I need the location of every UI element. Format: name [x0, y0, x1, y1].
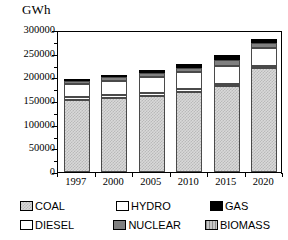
legend-swatch-diesel-icon: [20, 220, 33, 230]
x-axis-tick-mark: [170, 173, 171, 177]
bar-segment-coal: [214, 86, 240, 172]
x-axis-tick-mark: [132, 173, 133, 177]
bar-segment-diesel: [101, 95, 127, 98]
bar-1997: [64, 30, 90, 172]
y-axis-tick-label: 100000: [0, 120, 55, 130]
bar-segment-hydro: [251, 48, 277, 66]
bar-segment-diesel: [214, 84, 240, 87]
bar-segment-nuclear: [176, 68, 202, 72]
legend-label-diesel: DIESEL: [35, 219, 74, 231]
y-axis-tick-label: 300000: [0, 25, 55, 35]
bar-segment-diesel: [251, 66, 277, 69]
y-axis-tick-label: 200000: [0, 72, 55, 82]
x-axis-tick-mark: [245, 173, 246, 177]
chart-legend: COAL HYDRO GAS DIESEL NUCLEAR BIOMA: [20, 198, 270, 236]
legend-item-nuclear: NUCLEAR: [113, 217, 204, 233]
y-axis-tick-label: 250000: [0, 49, 55, 59]
x-axis-tick-mark: [57, 173, 58, 177]
bar-segment-hydro: [101, 81, 127, 95]
bar-segment-nuclear: [251, 43, 277, 47]
bar-segment-diesel: [139, 93, 165, 96]
legend-row-2: DIESEL NUCLEAR BIOMASS: [20, 217, 270, 233]
bar-segment-diesel: [64, 97, 90, 100]
bar-segment-hydro: [64, 84, 90, 97]
legend-item-gas: GAS: [210, 198, 248, 214]
y-axis-tick-label: 150000: [0, 96, 55, 106]
bar-2000: [101, 30, 127, 172]
legend-item-hydro: HYDRO: [116, 198, 210, 214]
legend-swatch-gas-icon: [210, 201, 223, 211]
stacked-bar-chart: GWh 050000100000150000200000250000300000…: [0, 0, 288, 240]
x-axis-tick-mark: [282, 173, 283, 177]
bar-segment-gas: [214, 55, 240, 60]
bar-segment-nuclear: [101, 77, 127, 81]
bar-segment-coal: [64, 100, 90, 172]
legend-label-coal: COAL: [35, 200, 65, 212]
y-axis-tick-label: 0: [0, 167, 55, 177]
legend-label-hydro: HYDRO: [131, 200, 171, 212]
legend-item-biomass: BIOMASS: [205, 217, 270, 233]
legend-swatch-biomass-icon: [205, 220, 218, 230]
legend-item-coal: COAL: [20, 198, 116, 214]
bar-segment-coal: [101, 98, 127, 172]
bar-segment-hydro: [139, 77, 165, 93]
bar-segment-gas: [101, 75, 127, 77]
bar-segment-coal: [251, 68, 277, 172]
legend-swatch-nuclear-icon: [113, 220, 126, 230]
bar-segment-diesel: [176, 89, 202, 92]
bar-segment-coal: [139, 96, 165, 172]
bar-segment-gas: [176, 64, 202, 68]
bar-segment-gas: [64, 79, 90, 81]
legend-swatch-hydro-icon: [116, 201, 129, 211]
x-axis-tick-mark: [207, 173, 208, 177]
bar-2020: [251, 30, 277, 172]
legend-label-nuclear: NUCLEAR: [128, 219, 181, 231]
bar-segment-nuclear: [139, 73, 165, 77]
legend-label-gas: GAS: [225, 200, 248, 212]
bar-segment-nuclear: [64, 81, 90, 84]
bar-segment-gas: [139, 70, 165, 73]
bar-2015: [214, 30, 240, 172]
y-axis-unit-label: GWh: [22, 2, 51, 18]
bar-2010: [176, 30, 202, 172]
x-axis-tick-label: 2020: [239, 176, 287, 187]
legend-row-1: COAL HYDRO GAS: [20, 198, 270, 214]
bar-segment-nuclear: [214, 60, 240, 66]
x-axis-tick-mark: [95, 173, 96, 177]
bar-segment-gas: [251, 39, 277, 43]
bar-segment-hydro: [176, 72, 202, 89]
bar-segment-coal: [176, 92, 202, 172]
bar-2005: [139, 30, 165, 172]
legend-swatch-coal-icon: [20, 201, 33, 211]
y-axis-tick-label: 50000: [0, 143, 55, 153]
bar-segment-hydro: [214, 66, 240, 84]
plot-area: [57, 31, 282, 173]
legend-item-diesel: DIESEL: [20, 217, 113, 233]
legend-label-biomass: BIOMASS: [220, 219, 270, 231]
